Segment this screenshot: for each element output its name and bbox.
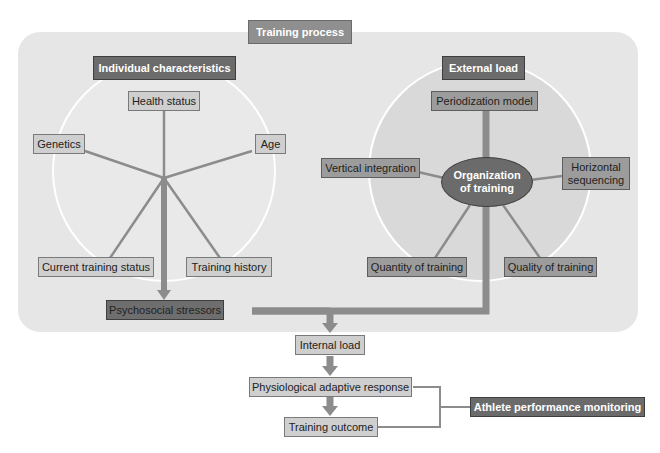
internal-load: Internal load	[295, 335, 365, 355]
item-quality-of-training: Quality of training	[504, 257, 597, 277]
physiological-adaptive-response: Physiological adaptive response	[249, 377, 412, 397]
organization-line-2: of training	[453, 182, 520, 195]
header-individual-characteristics: Individual characteristics	[93, 56, 236, 80]
item-age: Age	[255, 134, 286, 154]
organization-of-training-node: Organization of training	[441, 157, 533, 207]
item-quantity-of-training: Quantity of training	[367, 257, 467, 277]
header-external-load: External load	[442, 56, 525, 80]
psychosocial-stressors: Psychosocial stressors	[106, 300, 224, 320]
item-health-status: Health status	[128, 91, 200, 111]
item-genetics: Genetics	[33, 134, 85, 154]
item-training-history: Training history	[186, 257, 272, 277]
item-current-training-status: Current training status	[38, 257, 154, 277]
item-vertical-integration: Vertical integration	[321, 158, 420, 178]
athlete-performance-monitoring: Athlete performance monitoring	[470, 397, 645, 417]
item-periodization-model: Periodization model	[431, 91, 538, 111]
item-horizontal-sequencing: Horizontal sequencing	[562, 157, 630, 190]
horizontal-line-2: sequencing	[568, 174, 624, 187]
horizontal-line-1: Horizontal	[571, 161, 621, 174]
organization-line-1: Organization	[453, 169, 520, 182]
training-outcome: Training outcome	[284, 417, 378, 437]
title-training-process: Training process	[248, 20, 352, 44]
